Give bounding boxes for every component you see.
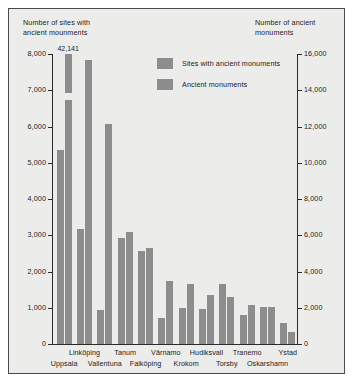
left-tick-label: 6,000 — [28, 122, 47, 131]
category-label: Uppsala — [51, 359, 78, 368]
left-tick-mark — [48, 163, 52, 164]
left-tick-mark — [48, 54, 52, 55]
bar-sites — [199, 309, 206, 344]
bar-group — [77, 60, 92, 344]
right-tick-label: 0 — [304, 339, 308, 348]
left-axis-line — [52, 54, 53, 344]
bar-sites — [97, 310, 104, 344]
left-tick-label: 4,000 — [28, 194, 47, 203]
bar-sites — [260, 307, 267, 344]
bar-monuments — [248, 305, 255, 345]
right-tick-label: 2,000 — [304, 303, 323, 312]
bar-monuments — [207, 295, 214, 344]
right-tick-label: 4,000 — [304, 267, 323, 276]
bar-group — [138, 248, 153, 344]
right-tick-label: 6,000 — [304, 230, 323, 239]
right-tick-mark — [298, 90, 302, 91]
category-label: Ystad — [279, 348, 298, 357]
left-tick-label: 5,000 — [28, 158, 47, 167]
right-axis-title: Number of ancient monuments — [255, 18, 335, 37]
bar-monuments — [166, 281, 173, 344]
chart-figure: Number of sites with ancient mounments N… — [8, 8, 345, 374]
right-tick-mark — [298, 272, 302, 273]
left-tick-mark — [48, 235, 52, 236]
bar-sites — [158, 318, 165, 344]
left-tick-mark — [48, 199, 52, 200]
left-tick-label: 1,000 — [28, 303, 47, 312]
bar-group — [280, 323, 295, 344]
bar-group — [240, 305, 255, 345]
left-tick-label: 0 — [42, 339, 46, 348]
bar-group — [219, 284, 234, 344]
bar-sites — [138, 251, 145, 344]
category-label: Vallentuna — [88, 359, 122, 368]
left-tick-mark — [48, 90, 52, 91]
category-label: Oskarshamn — [247, 359, 288, 368]
right-tick-label: 16,000 — [304, 49, 327, 58]
bar-group — [179, 284, 194, 344]
bar-sites — [179, 308, 186, 344]
right-tick-label: 12,000 — [304, 122, 327, 131]
category-label: Falköping — [130, 359, 162, 368]
bar-value-annotation: 42,141 — [57, 45, 78, 52]
bar-sites — [240, 315, 247, 344]
bar-group — [118, 232, 133, 344]
right-tick-mark — [298, 308, 302, 309]
bar-monuments — [126, 232, 133, 344]
left-tick-label: 3,000 — [28, 230, 47, 239]
bar-group — [97, 124, 112, 344]
left-tick-mark — [48, 127, 52, 128]
bar-monuments — [288, 332, 295, 344]
bar-monuments — [187, 284, 194, 344]
category-label: Hudiksvall — [190, 348, 223, 357]
left-axis-title: Number of sites with ancient mounments — [23, 18, 90, 37]
left-tick-mark — [48, 272, 52, 273]
category-label: Värnamo — [151, 348, 181, 357]
right-tick-mark — [298, 54, 302, 55]
right-tick-mark — [298, 235, 302, 236]
category-label: Tanum — [114, 348, 136, 357]
bar-group: 42,141 — [57, 54, 72, 344]
left-tick-label: 7,000 — [28, 85, 47, 94]
bar-sites — [219, 284, 226, 344]
right-tick-mark — [298, 344, 302, 345]
category-label: Tranemo — [233, 348, 262, 357]
right-tick-label: 8,000 — [304, 194, 323, 203]
x-axis-line — [52, 344, 298, 345]
bar-group — [199, 295, 214, 344]
left-tick-mark — [48, 344, 52, 345]
right-tick-mark — [298, 199, 302, 200]
right-tick-mark — [298, 163, 302, 164]
bar-monuments — [268, 307, 275, 344]
category-label: Krokom — [174, 359, 199, 368]
bar-group — [260, 307, 275, 344]
category-label: Linköping — [69, 348, 100, 357]
bar-monuments — [146, 248, 153, 344]
axis-break-mark — [64, 93, 73, 100]
bar-sites — [118, 238, 125, 344]
plot-area: 01,0002,0003,0004,0005,0006,0007,0008,00… — [53, 54, 297, 344]
bar-monuments — [85, 60, 92, 344]
bar-group — [158, 281, 173, 344]
bar-sites — [77, 229, 84, 344]
bar-monuments: 42,141 — [65, 54, 72, 344]
right-tick-label: 10,000 — [304, 158, 327, 167]
bar-monuments — [227, 297, 234, 344]
category-label: Torsby — [216, 359, 237, 368]
left-tick-label: 8,000 — [28, 49, 47, 58]
right-tick-mark — [298, 127, 302, 128]
bar-monuments — [105, 124, 112, 344]
left-tick-mark — [48, 308, 52, 309]
left-tick-label: 2,000 — [28, 267, 47, 276]
right-tick-label: 14,000 — [304, 85, 327, 94]
bar-sites — [57, 150, 64, 344]
bar-sites — [280, 323, 287, 344]
